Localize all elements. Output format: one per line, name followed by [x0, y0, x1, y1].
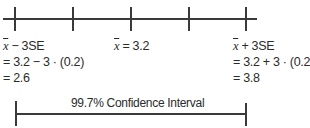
tick-plus-3se — [245, 7, 247, 31]
lower-bound-formula: x − 3SE — [3, 38, 44, 54]
upper-bound-result: = 3.8 — [233, 70, 260, 86]
interval-right-end — [245, 103, 247, 126]
tick-plus-1 — [188, 7, 190, 31]
upper-bound-substitution: = 3.2 + 3 · (0.2) — [233, 54, 310, 70]
tick-mean — [130, 7, 132, 31]
interval-label: 99.7% Confidence Interval — [71, 96, 204, 110]
tick-minus-3se — [14, 7, 16, 31]
interval-line — [15, 113, 246, 115]
mean-label: x = 3.2 — [114, 38, 149, 54]
upper-bound-formula: x + 3SE — [233, 38, 274, 54]
tick-minus-1 — [72, 7, 74, 31]
lower-bound-result: = 2.6 — [3, 70, 30, 86]
lower-bound-substitution: = 3.2 − 3 · (0.2) — [3, 54, 84, 70]
